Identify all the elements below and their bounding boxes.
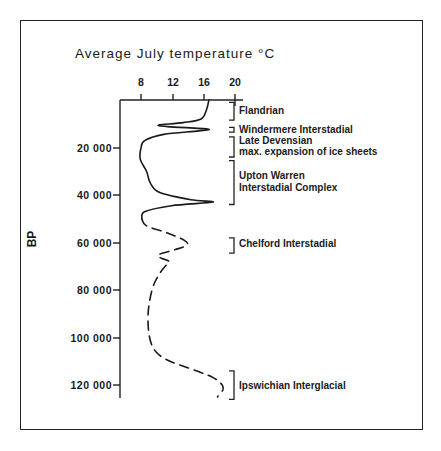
chart-plot (0, 0, 441, 451)
solid-temperature-line (140, 100, 213, 219)
period-label-upton-warren: Upton Warren (239, 170, 305, 182)
period-bracket (229, 371, 234, 400)
period-label-interstadial-complex: Interstadial Complex (239, 182, 337, 194)
temperature-curve (140, 100, 223, 397)
period-label-ice-sheets: max. expansion of ice sheets (239, 146, 377, 158)
period-label-chelford: Chelford Interstadial (239, 238, 336, 250)
period-label-late-devensian: Late Devensian (239, 135, 312, 147)
period-label-flandrian: Flandrian (239, 105, 284, 117)
period-brackets (229, 102, 234, 399)
period-bracket (229, 238, 234, 253)
axes (113, 94, 243, 398)
dashed-temperature-line (142, 219, 224, 397)
period-bracket (229, 137, 234, 157)
period-bracket (229, 127, 234, 132)
period-label-windermere: Windermere Interstadial (239, 124, 353, 136)
period-label-ipswichian: Ipswichian Interglacial (239, 380, 346, 392)
period-bracket (229, 161, 234, 205)
period-bracket (229, 102, 234, 120)
